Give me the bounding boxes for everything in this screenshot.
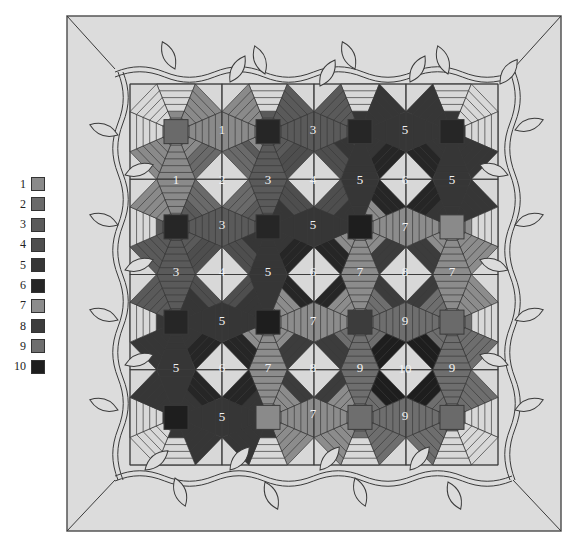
block-center-square: [440, 215, 464, 239]
quilt-block: [222, 370, 314, 465]
block-center-square: [348, 120, 372, 144]
block-center-square: [164, 310, 188, 334]
quilt-block: [314, 370, 406, 465]
block-center-square: [348, 310, 372, 334]
block-center-square: [256, 405, 280, 429]
block-center-square: [256, 215, 280, 239]
block-center-square: [164, 120, 188, 144]
quilt-block: [314, 84, 406, 179]
block-center-square: [440, 310, 464, 334]
quilt-block: [222, 275, 314, 370]
quilt-diagram: [0, 0, 573, 539]
block-center-square: [256, 120, 280, 144]
block-center-square: [256, 310, 280, 334]
quilt-block: [222, 179, 314, 274]
quilt-block: [314, 179, 406, 274]
block-center-square: [164, 405, 188, 429]
block-center-square: [164, 215, 188, 239]
quilt-block: [222, 84, 314, 179]
quilt-block: [314, 275, 406, 370]
quilt-block: [130, 370, 222, 465]
block-center-square: [440, 120, 464, 144]
block-center-square: [440, 405, 464, 429]
block-center-square: [348, 215, 372, 239]
block-center-square: [348, 405, 372, 429]
